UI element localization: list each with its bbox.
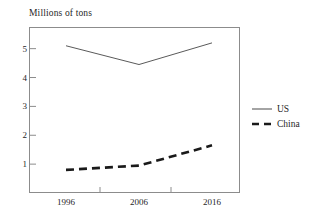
series-line-china [66,145,212,170]
solid-line-swatch [252,104,272,114]
legend-item-china: China [252,116,315,131]
line-chart: Millions of tons 12345 199620062016 US C… [0,0,315,222]
chart-legend: US China [252,101,315,131]
dashed-line-swatch [252,119,272,129]
legend-label-us: US [277,104,289,114]
series-line-us [66,43,212,65]
legend-label-china: China [277,119,300,129]
legend-item-us: US [252,101,315,116]
